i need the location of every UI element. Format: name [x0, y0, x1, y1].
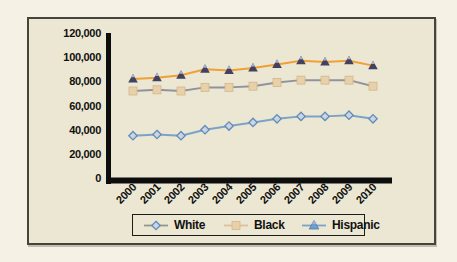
- triangle-marker-highlight: [371, 61, 375, 64]
- x-tick-label: 2009: [329, 181, 354, 206]
- triangle-marker-highlight: [323, 57, 327, 60]
- square-marker: [249, 82, 257, 90]
- line-chart-plot: 020,00040,00060,00080,000100,000120,0002…: [29, 19, 434, 214]
- square-marker: [369, 82, 377, 90]
- legend-label: Hispanic: [332, 218, 380, 232]
- triangle-marker-highlight: [299, 56, 303, 59]
- triangle-marker-highlight: [203, 64, 207, 67]
- x-tick-label: 2001: [137, 181, 162, 206]
- y-tick-label: 100,000: [63, 51, 101, 63]
- y-tick-label: 20,000: [69, 148, 101, 160]
- diamond-marker: [201, 125, 209, 133]
- y-tick-label: 60,000: [69, 100, 101, 112]
- figure: 020,00040,00060,00080,000100,000120,0002…: [0, 0, 457, 262]
- square-marker: [225, 83, 233, 91]
- square-marker: [177, 87, 185, 95]
- x-tick-label: 2007: [281, 181, 306, 206]
- diamond-marker: [297, 112, 305, 120]
- legend-item-black: Black: [223, 215, 285, 235]
- square-marker: [345, 76, 353, 84]
- legend-diamond-icon: [143, 219, 169, 232]
- diamond-marker: [129, 132, 137, 140]
- legend-square-icon: [223, 219, 249, 232]
- square-marker: [201, 83, 209, 91]
- diamond-marker: [249, 118, 257, 126]
- square-marker: [297, 76, 305, 84]
- diamond-marker: [225, 122, 233, 130]
- diamond-marker: [345, 111, 353, 119]
- triangle-marker-highlight: [347, 56, 351, 59]
- diamond-marker: [273, 115, 281, 123]
- diamond-marker: [177, 132, 185, 140]
- x-tick-label: 2005: [233, 181, 258, 206]
- y-tick-label: 0: [95, 172, 101, 184]
- triangle-marker-highlight: [155, 73, 159, 76]
- triangle-marker-highlight: [179, 70, 183, 73]
- x-tick-label: 2002: [161, 181, 186, 206]
- square-marker: [129, 87, 137, 95]
- legend-triangle-icon: [301, 219, 327, 232]
- diamond-marker: [153, 130, 161, 138]
- x-tick-label: 2000: [113, 181, 138, 206]
- square-marker: [273, 79, 281, 87]
- chart-legend: WhiteBlackHispanic: [132, 214, 365, 236]
- y-tick-label: 80,000: [69, 75, 101, 87]
- legend-label: Black: [254, 218, 285, 232]
- triangle-marker-highlight: [275, 59, 279, 62]
- legend-label: White: [174, 218, 205, 232]
- triangle-marker-highlight: [227, 65, 231, 68]
- x-tick-label: 2006: [257, 181, 282, 206]
- legend-item-hispanic: Hispanic: [301, 215, 380, 235]
- x-tick-label: 2008: [305, 181, 330, 206]
- y-tick-label: 120,000: [63, 27, 101, 39]
- chart-card: 020,00040,00060,00080,000100,000120,0002…: [27, 17, 436, 245]
- legend-item-white: White: [143, 215, 205, 235]
- diamond-marker: [321, 112, 329, 120]
- x-tick-label: 2003: [185, 181, 210, 206]
- triangle-marker-highlight: [131, 74, 135, 77]
- square-marker: [321, 76, 329, 84]
- triangle-marker-highlight: [251, 63, 255, 66]
- y-axis-line: [106, 33, 111, 184]
- diamond-marker: [369, 115, 377, 123]
- x-tick-label: 2010: [353, 181, 378, 206]
- square-marker: [153, 86, 161, 94]
- y-tick-label: 40,000: [69, 124, 101, 136]
- x-tick-label: 2004: [209, 180, 235, 206]
